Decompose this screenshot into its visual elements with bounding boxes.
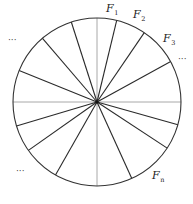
radial-line <box>28 102 97 150</box>
force-label: F3 <box>162 32 175 47</box>
radial-line <box>97 62 171 102</box>
sector-diagram: F1F2F3Fn ········· <box>0 0 193 204</box>
force-label: F1 <box>105 2 118 17</box>
radial-line <box>19 71 97 102</box>
center-point <box>95 100 98 103</box>
radial-line <box>71 22 97 102</box>
force-label: F2 <box>132 8 145 23</box>
radial-line <box>97 20 117 102</box>
radial-line <box>42 38 97 102</box>
radial-line <box>97 33 144 102</box>
ellipsis-marker: ··· <box>16 166 25 176</box>
ellipsis-marker: ··· <box>8 35 17 45</box>
radial-line <box>97 102 178 125</box>
force-label: Fn <box>151 169 164 184</box>
ellipsis-marker: ··· <box>178 54 187 64</box>
